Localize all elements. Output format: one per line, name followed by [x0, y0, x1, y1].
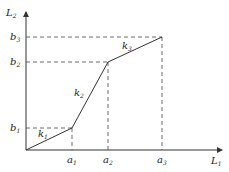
- y-axis-label: L2: [5, 7, 17, 19]
- diagram-canvas: L2 L1 b3 b2 b1 a1 a2 a3 k1 k2 k3: [0, 0, 229, 172]
- y-tick-b3: b3: [10, 31, 20, 43]
- x-tick-a3: a3: [157, 154, 167, 166]
- x-tick-a2: a2: [103, 154, 113, 166]
- y-tick-b1: b1: [10, 122, 20, 134]
- y-tick-b2: b2: [10, 56, 20, 68]
- x-axis-label: L1: [210, 155, 221, 167]
- slope-label-k3: k3: [122, 40, 132, 52]
- x-tick-a1: a1: [67, 154, 77, 166]
- slope-label-k1: k1: [38, 128, 48, 140]
- slope-label-k2: k2: [74, 87, 84, 99]
